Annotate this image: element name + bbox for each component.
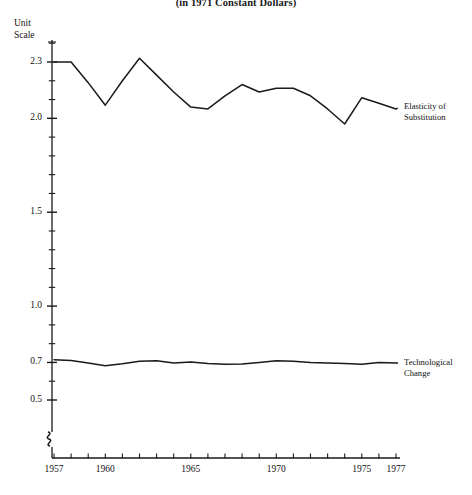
y-axis-tick-label: 2.0 <box>8 112 42 122</box>
series-label-line2: Substitution <box>404 112 446 123</box>
x-axis-tick-label: 1965 <box>171 464 211 474</box>
y-axis-tick-label: 2.3 <box>8 56 42 66</box>
x-axis-tick-label: 1957 <box>34 464 74 474</box>
series-label-line1: Elasticity of <box>404 101 446 112</box>
y-axis-title-line1: Unit <box>14 18 35 30</box>
series-line-elasticity-of-substitution <box>54 58 396 124</box>
y-axis-tick-label: 0.5 <box>8 394 42 404</box>
x-axis-tick-label: 1970 <box>256 464 296 474</box>
x-axis-tick-label: 1960 <box>85 464 125 474</box>
axis-break-icon <box>47 432 50 446</box>
y-axis-title-line2: Scale <box>14 30 35 42</box>
y-axis-tick-label: 1.5 <box>8 206 42 216</box>
plot-canvas <box>0 0 472 495</box>
series-line-technological-change <box>54 360 396 366</box>
series-label-elasticity-of-substitution: Elasticity of Substitution <box>404 101 446 122</box>
leader-line-elasticity-of-substitution <box>396 108 398 109</box>
y-axis-tick-label: 1.0 <box>8 300 42 310</box>
series-label-line1: Technological <box>404 357 453 368</box>
series-label-line2: Change <box>404 368 453 379</box>
y-axis-title: Unit Scale <box>14 18 35 41</box>
series-label-technological-change: Technological Change <box>404 357 453 378</box>
chart-subtitle: (in 1971 Constant Dollars) <box>0 0 472 8</box>
y-axis-tick-label: 0.7 <box>8 356 42 366</box>
chart-figure: (in 1971 Constant Dollars) Unit Scale 2.… <box>0 0 472 495</box>
x-axis-tick-label: 1977 <box>376 464 416 474</box>
